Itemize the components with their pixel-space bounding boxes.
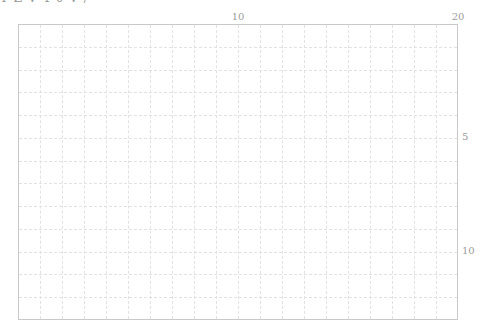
grid-line-horizontal <box>19 229 457 230</box>
grid-line-horizontal <box>19 161 457 162</box>
grid-line-horizontal <box>19 70 457 71</box>
y-tick-label: 10 <box>462 244 475 256</box>
clipped-title-text: Y Z V 4 0 V / <box>0 0 89 3</box>
x-tick-label: 20 <box>452 11 465 23</box>
grid-line-horizontal <box>19 92 457 93</box>
plot-area <box>18 24 458 320</box>
grid-line-horizontal <box>19 252 457 253</box>
x-tick-label: 10 <box>232 11 245 23</box>
grid-line-horizontal <box>19 206 457 207</box>
grid-line-horizontal <box>19 274 457 275</box>
grid-line-horizontal <box>19 138 457 139</box>
grid-line-horizontal <box>19 115 457 116</box>
grid-line-horizontal <box>19 297 457 298</box>
grid-line-horizontal <box>19 47 457 48</box>
grid-line-horizontal <box>19 183 457 184</box>
y-tick-label: 5 <box>462 131 468 143</box>
